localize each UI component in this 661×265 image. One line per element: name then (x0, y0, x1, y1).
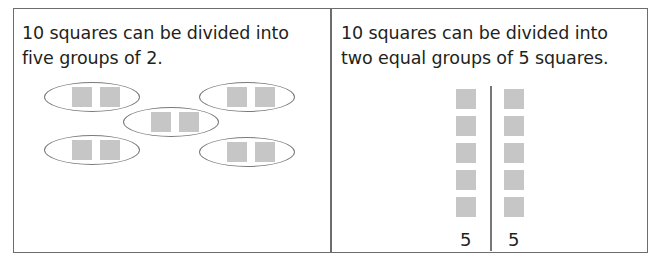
square (72, 87, 92, 107)
caption-line: two equal groups of 5 squares. (341, 46, 641, 71)
panel-two-groups-of-five: 10 squares can be divided into two equal… (330, 8, 648, 253)
square (255, 87, 275, 107)
caption-line: five groups of 2. (22, 46, 322, 71)
group-count-label-right: 5 (508, 229, 519, 250)
group-ellipse-5 (199, 137, 295, 167)
group-divider-line (490, 86, 492, 251)
caption-line: 10 squares can be divided into (22, 21, 322, 46)
square (504, 116, 524, 136)
square (456, 116, 476, 136)
square (504, 89, 524, 109)
square (255, 142, 275, 162)
square (227, 142, 247, 162)
square (100, 87, 120, 107)
caption-right: 10 squares can be divided into two equal… (341, 21, 641, 71)
caption-left: 10 squares can be divided into five grou… (22, 21, 322, 71)
group-ellipse-2 (199, 82, 295, 112)
group-ellipse-4 (44, 135, 140, 165)
square (456, 89, 476, 109)
group-ellipse-1 (44, 82, 140, 112)
square (504, 197, 524, 217)
caption-line: 10 squares can be divided into (341, 21, 641, 46)
square (456, 143, 476, 163)
square (72, 140, 92, 160)
square (100, 140, 120, 160)
square (504, 170, 524, 190)
square (456, 170, 476, 190)
square (227, 87, 247, 107)
square (179, 112, 199, 132)
panel-five-groups-of-two: 10 squares can be divided into five grou… (13, 8, 332, 253)
group-ellipse-3 (123, 107, 219, 137)
group-count-label-left: 5 (460, 229, 471, 250)
square (456, 197, 476, 217)
square (504, 143, 524, 163)
square (151, 112, 171, 132)
